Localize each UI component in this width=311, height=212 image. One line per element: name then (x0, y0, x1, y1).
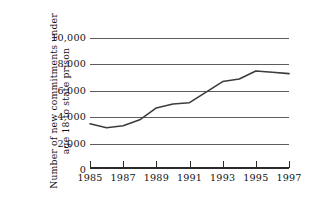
x-tick-1995 (256, 161, 257, 168)
x-tick-1987 (123, 161, 124, 168)
x-tick-1989 (156, 161, 157, 168)
x-axis-tick-labels: 1985198719891991199319951997 (0, 172, 311, 188)
y-tick-label-8000: 8,000 (38, 58, 86, 69)
x-tick-1997 (289, 161, 290, 168)
y-tick-label-4000: 4,000 (38, 111, 86, 122)
y-axis-tick-labels: 02,0004,0006,0008,00010,000 (34, 38, 86, 170)
data-series-line (90, 38, 289, 170)
commitments-line (90, 71, 289, 128)
x-tick-1993 (223, 161, 224, 168)
chart-figure: Number of new commitments under age 18 t… (0, 0, 311, 212)
y-tick-label-10000: 10,000 (38, 32, 86, 43)
y-tick-label-6000: 6,000 (38, 85, 86, 96)
y-tick-label-2000: 2,000 (38, 138, 86, 149)
x-tick-label-1997: 1997 (269, 172, 309, 183)
x-tick-1985 (90, 161, 91, 168)
plot-area (90, 38, 289, 170)
x-tick-1991 (190, 161, 191, 168)
